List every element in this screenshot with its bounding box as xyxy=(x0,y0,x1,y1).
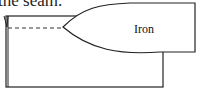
iron-shape xyxy=(63,3,195,53)
ironing-diagram xyxy=(0,0,199,90)
iron-label: Iron xyxy=(134,22,154,37)
